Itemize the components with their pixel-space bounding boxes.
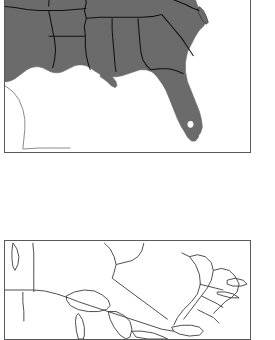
- map-panel-shaded: [4, 0, 251, 153]
- lake-okeechobee: [188, 121, 194, 128]
- map-panel-outline: [4, 240, 251, 340]
- shaded-us-southeast-map: [5, 0, 250, 152]
- outline-us-north-map: [5, 241, 250, 339]
